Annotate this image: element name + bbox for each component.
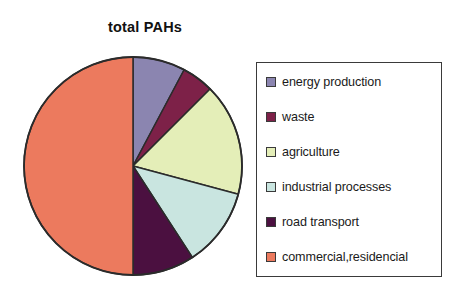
chart-title: total PAHs	[60, 19, 230, 35]
legend-item-industrial-processes[interactable]: industrial processes	[266, 177, 434, 197]
legend-item-agriculture[interactable]: agriculture	[266, 142, 434, 162]
chart-canvas: total PAHs energy production waste agric…	[0, 0, 452, 301]
legend-swatch-icon	[266, 217, 276, 227]
pie-slice[interactable]	[24, 57, 133, 275]
legend-swatch-icon	[266, 77, 276, 87]
legend-item-commercial-residencial[interactable]: commercial,residencial	[266, 247, 434, 267]
legend-item-label: industrial processes	[282, 181, 391, 194]
legend-item-label: agriculture	[282, 146, 340, 159]
legend-swatch-icon	[266, 182, 276, 192]
legend-item-label: waste	[282, 111, 314, 124]
legend-item-waste[interactable]: waste	[266, 107, 434, 127]
pie-chart	[23, 56, 243, 276]
legend-swatch-icon	[266, 252, 276, 262]
legend-item-label: energy production	[282, 76, 381, 89]
legend-item-road-transport[interactable]: road transport	[266, 212, 434, 232]
pie-chart-svg	[23, 56, 243, 276]
legend-item-label: road transport	[282, 216, 359, 229]
legend-item-label: commercial,residencial	[282, 251, 408, 264]
legend-item-energy-production[interactable]: energy production	[266, 72, 434, 92]
legend-swatch-icon	[266, 147, 276, 157]
pie-slice-group	[24, 57, 242, 275]
legend-swatch-icon	[266, 112, 276, 122]
chart-legend: energy production waste agriculture indu…	[256, 62, 442, 277]
